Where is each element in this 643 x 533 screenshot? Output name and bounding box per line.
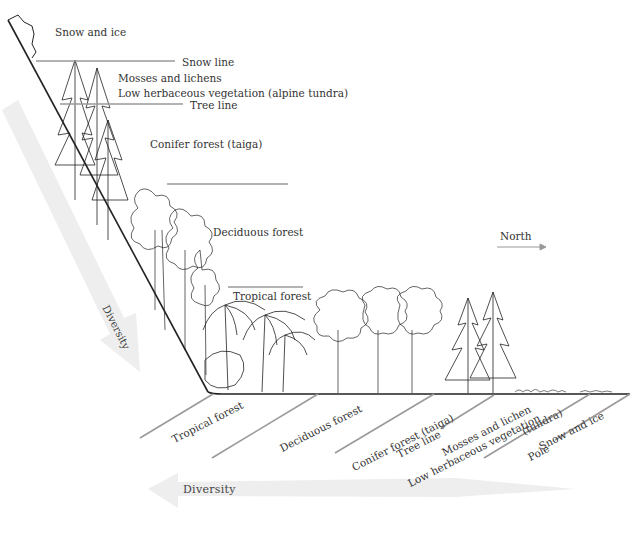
- terrain-outline: [8, 15, 630, 394]
- label-tropical-forest: Tropical forest: [233, 291, 311, 302]
- label-snow-and-ice: Snow and ice: [55, 27, 126, 38]
- lowland-deciduous-trees: [314, 286, 443, 393]
- label-diversity-horizontal: Diversity: [183, 483, 236, 496]
- arrow-right-icon: [497, 244, 546, 250]
- label-snow-line: Snow line: [182, 57, 234, 68]
- northern-conifers: [445, 292, 516, 393]
- label-deciduous-forest: Deciduous forest: [213, 227, 303, 238]
- tundra-scrub: [515, 390, 612, 393]
- label-low-herbaceous: Low herbaceous vegetation (alpine tundra…: [118, 88, 348, 99]
- tropical-palms: [203, 301, 315, 392]
- slope-deciduous-trees: [131, 189, 220, 375]
- label-conifer-forest: Conifer forest (taiga): [150, 139, 262, 150]
- label-mosses-lichens: Mosses and lichens: [118, 73, 222, 84]
- label-north: North: [500, 231, 532, 242]
- biome-zonation-figure: Snow and ice Snow line Mosses and lichen…: [0, 0, 643, 533]
- label-tree-line: Tree line: [190, 100, 237, 111]
